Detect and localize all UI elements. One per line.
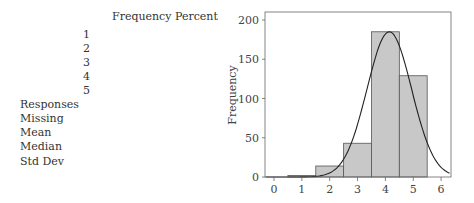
y-axis-ticks: 050100150200 [238, 14, 265, 184]
y-tick-label: 50 [245, 132, 259, 145]
histogram-bar [344, 143, 372, 177]
y-tick-label: 200 [238, 14, 259, 27]
y-tick-label: 100 [238, 93, 259, 106]
y-tick-label: 0 [252, 171, 259, 184]
x-axis-ticks: 0123456 [271, 177, 445, 196]
x-tick-label: 5 [410, 183, 417, 196]
histogram-chart: Frequency 050100150200 0123456 [0, 0, 474, 203]
histogram-bars [288, 32, 427, 177]
x-tick-label: 1 [298, 183, 305, 196]
x-tick-label: 2 [326, 183, 333, 196]
x-tick-label: 6 [438, 183, 445, 196]
x-tick-label: 0 [271, 183, 278, 196]
x-tick-label: 3 [354, 183, 361, 196]
histogram-bar [399, 76, 427, 177]
x-tick-label: 4 [382, 183, 389, 196]
y-tick-label: 150 [238, 53, 259, 66]
histogram-bar [371, 32, 399, 177]
